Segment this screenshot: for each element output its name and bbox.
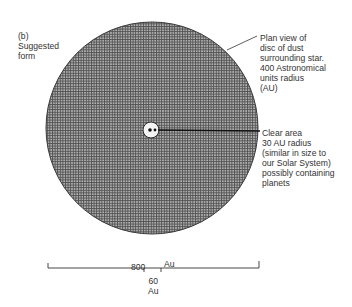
scale-unit: Au [164, 259, 175, 269]
scale-value: 800 [131, 262, 145, 272]
figure-label: (b) Suggested form [18, 31, 59, 61]
disc-leader-line [227, 36, 257, 50]
planet-dot [154, 129, 157, 132]
clear-area-annotation: Clear area 30 AU radius (similar in size… [262, 128, 335, 188]
disc-annotation: Plan view of disc of dust surrounding st… [260, 33, 326, 93]
scale-bar [48, 261, 259, 272]
star-dot [148, 128, 152, 132]
scale-inner-label: 60 Au [148, 276, 159, 296]
